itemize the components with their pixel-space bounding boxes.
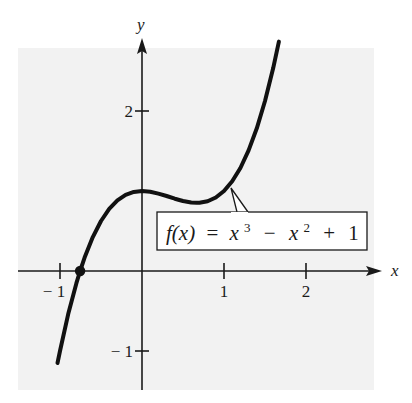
function-graph: x y − 112 2− 1 f(x) = x 3 − x 2 + 1	[0, 0, 412, 403]
y-axis-label: y	[135, 15, 145, 34]
x-axis-label: x	[390, 261, 399, 280]
root-point-marker	[75, 266, 85, 276]
x-tick-label: − 1	[43, 282, 65, 301]
y-tick-label: 2	[125, 102, 134, 121]
x-tick-label: 2	[302, 282, 311, 301]
y-tick-label: − 1	[111, 342, 133, 361]
x-tick-label: 1	[220, 282, 229, 301]
